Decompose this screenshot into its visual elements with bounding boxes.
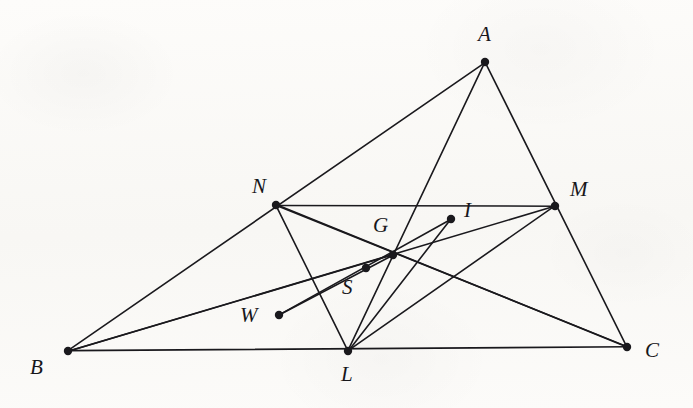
point-label-l: L	[341, 364, 353, 385]
segment-cevian-bg	[68, 255, 393, 352]
point-label-a: A	[478, 24, 491, 45]
vertex-dot-l	[344, 347, 352, 355]
point-label-i: I	[464, 200, 471, 221]
point-label-w: W	[240, 305, 258, 326]
segment-cevian-nc	[277, 205, 628, 346]
segment-cevian-wg	[280, 255, 393, 315]
point-label-b: B	[30, 357, 43, 378]
point-label-n: N	[252, 176, 266, 197]
vertex-dot-g	[389, 251, 397, 259]
point-label-c: C	[645, 340, 659, 361]
point-label-s: S	[342, 277, 353, 298]
vertex-dot-i	[447, 215, 455, 223]
vertex-dot-m	[551, 202, 559, 210]
point-label-m: M	[570, 179, 588, 200]
vertex-dot-c	[623, 343, 631, 351]
point-label-g: G	[373, 215, 388, 236]
geometry-figure: ABCNMLGISW	[0, 0, 693, 408]
segment-cevian-li	[348, 219, 451, 351]
vertex-dot-n	[272, 201, 280, 209]
vertex-dot-a	[481, 58, 489, 66]
segments-layer	[68, 62, 628, 351]
vertex-dot-b	[64, 347, 72, 355]
vertex-dot-s	[362, 264, 370, 272]
diagram-canvas	[0, 0, 693, 408]
vertex-dot-w	[275, 311, 283, 319]
